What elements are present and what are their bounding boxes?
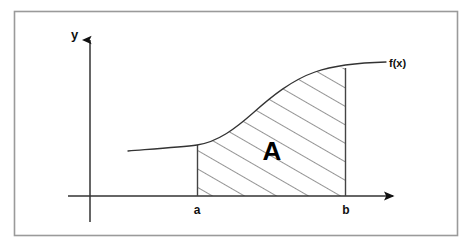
- area-under-curve-figure: y f(x) A a b: [0, 0, 474, 250]
- x-tick-label-a: a: [194, 203, 201, 217]
- y-axis-label: y: [71, 27, 79, 42]
- function-label: f(x): [389, 57, 406, 69]
- figure-border: [15, 12, 458, 236]
- figure-container: y f(x) A a b: [0, 0, 474, 250]
- area-label: A: [263, 136, 282, 166]
- x-tick-label-b: b: [342, 203, 349, 217]
